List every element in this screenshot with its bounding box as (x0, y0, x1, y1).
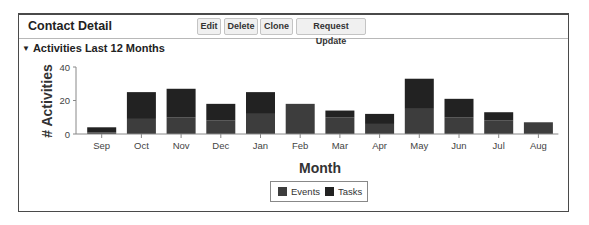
x-tick-label: Jun (451, 140, 466, 151)
bar-segment-events[interactable] (484, 121, 513, 134)
y-tick-label: 0 (65, 129, 70, 140)
x-tick-label: Sep (93, 140, 110, 151)
bar-dec[interactable] (206, 104, 235, 134)
delete-button[interactable]: Delete (224, 18, 258, 35)
clone-button[interactable]: Clone (260, 18, 293, 35)
x-axis-label: Month (299, 160, 341, 176)
bar-nov[interactable] (167, 89, 196, 134)
bar-jul[interactable] (484, 112, 513, 134)
bar-segment-events[interactable] (246, 114, 275, 134)
y-tick-label: 40 (59, 62, 70, 73)
bar-aug[interactable] (524, 122, 553, 134)
legend-item-events: Events (278, 186, 320, 197)
panel-title: Contact Detail (28, 19, 112, 33)
bar-segment-tasks[interactable] (365, 114, 394, 124)
bar-segment-events[interactable] (365, 124, 394, 134)
bar-segment-events[interactable] (524, 122, 553, 134)
x-tick-label: Jan (253, 140, 268, 151)
bar-segment-tasks[interactable] (206, 104, 235, 121)
bar-segment-events[interactable] (286, 104, 315, 134)
bar-feb[interactable] (286, 104, 315, 134)
bar-jan[interactable] (246, 92, 275, 134)
section-title: Activities Last 12 Months (33, 42, 165, 54)
chart-legend: Events Tasks (270, 181, 368, 202)
bar-apr[interactable] (365, 114, 394, 134)
bar-segment-events[interactable] (167, 117, 196, 134)
legend-item-tasks: Tasks (325, 186, 362, 197)
legend-label-tasks: Tasks (338, 186, 362, 197)
tasks-swatch-icon (325, 187, 334, 196)
y-tick-label: 20 (59, 95, 70, 106)
bar-segment-tasks[interactable] (445, 99, 474, 117)
bar-mar[interactable] (325, 111, 354, 134)
bar-segment-events[interactable] (127, 119, 156, 134)
y-axis-label: # Activities (39, 64, 55, 138)
events-swatch-icon (278, 187, 287, 196)
activities-section-toggle[interactable]: ▼Activities Last 12 Months (22, 42, 165, 54)
x-tick-label: May (410, 140, 428, 151)
bar-segment-events[interactable] (405, 109, 434, 134)
x-tick-label: Nov (173, 140, 190, 151)
edit-button[interactable]: Edit (197, 18, 221, 35)
bar-segment-events[interactable] (325, 117, 354, 134)
x-tick-label: Apr (372, 140, 387, 151)
x-tick-label: Aug (530, 140, 547, 151)
bar-segment-tasks[interactable] (127, 92, 156, 119)
bar-segment-tasks[interactable] (87, 127, 116, 132)
request-update-button[interactable]: Request Update (296, 18, 366, 35)
collapse-triangle-icon: ▼ (22, 44, 30, 53)
panel-header: Contact Detail Edit Delete Clone Request… (19, 15, 568, 39)
bar-sep[interactable] (87, 127, 116, 134)
bar-segment-tasks[interactable] (167, 89, 196, 117)
bar-oct[interactable] (127, 92, 156, 134)
x-tick-label: Feb (292, 140, 308, 151)
x-tick-label: Oct (134, 140, 149, 151)
bar-segment-tasks[interactable] (325, 111, 354, 118)
bar-segment-tasks[interactable] (246, 92, 275, 114)
x-tick-label: Mar (332, 140, 348, 151)
bar-may[interactable] (405, 79, 434, 134)
bar-jun[interactable] (445, 99, 474, 134)
bar-segment-events[interactable] (445, 117, 474, 134)
bar-segment-events[interactable] (206, 121, 235, 134)
x-tick-label: Dec (212, 140, 229, 151)
bar-segment-tasks[interactable] (405, 79, 434, 109)
bar-segment-tasks[interactable] (484, 112, 513, 120)
x-tick-label: Jul (493, 140, 505, 151)
legend-label-events: Events (291, 186, 320, 197)
